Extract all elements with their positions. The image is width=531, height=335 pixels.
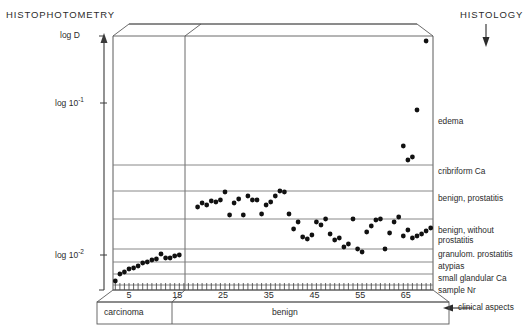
x-tick-label-65: 65 (401, 291, 411, 300)
data-point (314, 220, 319, 225)
data-point (246, 194, 251, 199)
data-point (150, 258, 155, 263)
data-point (332, 238, 337, 243)
data-point (424, 229, 429, 234)
data-point (241, 213, 246, 218)
data-point (392, 220, 397, 225)
y-axis (99, 33, 108, 290)
data-point (291, 227, 296, 232)
data-point (214, 200, 219, 205)
y-tick-label-2: log 10-2 (55, 249, 84, 260)
x-tick-label-15: 15 (172, 291, 182, 300)
data-point (218, 198, 223, 203)
y-tick-label-1: log 10-1 (55, 97, 84, 108)
data-point (168, 256, 173, 261)
y-tick-1-exponent: -1 (78, 96, 84, 103)
y-tick-1-mantissa: log 10 (55, 98, 78, 108)
data-point (268, 200, 273, 205)
x-tick-label-5: 5 (127, 291, 132, 300)
data-point (140, 261, 145, 266)
x-tick-label-25: 25 (218, 291, 228, 300)
data-point (154, 257, 159, 262)
data-point (360, 250, 365, 255)
data-point (428, 226, 433, 231)
data-point (396, 215, 401, 220)
data-point (374, 218, 379, 223)
grid-lines (113, 165, 433, 285)
right-label-4: prostatitis (438, 236, 474, 245)
data-point (250, 198, 255, 203)
data-point (273, 194, 278, 199)
data-point (355, 247, 360, 252)
data-point (342, 245, 347, 250)
chart-root: HISTOPHOTOMETRY HISTOLOGY (0, 0, 531, 335)
data-point (227, 213, 232, 218)
data-point (328, 232, 333, 237)
data-point (118, 272, 123, 277)
data-point (415, 108, 420, 113)
data-point (232, 201, 237, 206)
data-point (122, 270, 127, 275)
right-label-7: small glandular Ca (438, 274, 507, 283)
box-top-face (113, 24, 433, 36)
data-point (410, 236, 415, 241)
x-tick-label-55: 55 (355, 291, 365, 300)
right-label-3: benign, without (438, 226, 494, 235)
data-point (406, 228, 411, 233)
data-point (136, 264, 141, 269)
data-point (369, 224, 374, 229)
data-point (406, 158, 411, 163)
data-point (296, 220, 301, 225)
data-point (131, 266, 136, 271)
y-tick-2-mantissa: log 10 (55, 250, 78, 260)
data-point (259, 212, 264, 217)
right-label-0: edema (438, 117, 463, 126)
category-label-benign: benign (272, 308, 298, 317)
scatter-points (113, 39, 433, 284)
data-point (255, 198, 260, 203)
data-point (163, 256, 168, 261)
data-point (401, 234, 406, 239)
data-point (337, 236, 342, 241)
data-point (223, 190, 228, 195)
right-label-1: cribriform Ca (438, 167, 485, 176)
data-point (364, 230, 369, 235)
right-label-8: sample Nr (438, 286, 476, 295)
clinical-aspects-label: clinical aspects (458, 303, 514, 312)
data-point (378, 217, 383, 222)
x-tick-label-45: 45 (309, 291, 319, 300)
data-point (145, 260, 150, 265)
x-axis-minor-ticks (115, 283, 430, 290)
data-point (310, 233, 315, 238)
data-point (351, 217, 356, 222)
data-point (346, 242, 351, 247)
data-point (319, 223, 324, 228)
data-point (195, 205, 200, 210)
data-point (204, 203, 209, 208)
data-point (415, 234, 420, 239)
data-point (236, 197, 241, 202)
data-point (387, 231, 392, 236)
data-point (172, 254, 177, 259)
right-label-2: benign, prostatitis (438, 194, 503, 203)
data-point (300, 235, 305, 240)
data-point (200, 201, 205, 206)
data-point (424, 39, 429, 44)
data-point (278, 189, 283, 194)
y-axis-label: log D (60, 31, 80, 40)
data-point (159, 252, 164, 257)
data-point (264, 203, 269, 208)
data-point (323, 217, 328, 222)
data-point (282, 190, 287, 195)
data-point (383, 247, 388, 252)
x-tick-label-35: 35 (264, 291, 274, 300)
histology-arrow-icon (483, 24, 490, 47)
data-point (401, 144, 406, 149)
data-point (287, 212, 292, 217)
right-label-6: atypias (438, 262, 464, 271)
category-label-carcinoma: carcinoma (104, 308, 144, 317)
data-point (419, 232, 424, 237)
data-point (209, 199, 214, 204)
data-point (410, 155, 415, 160)
y-tick-2-exponent: -2 (78, 248, 84, 255)
